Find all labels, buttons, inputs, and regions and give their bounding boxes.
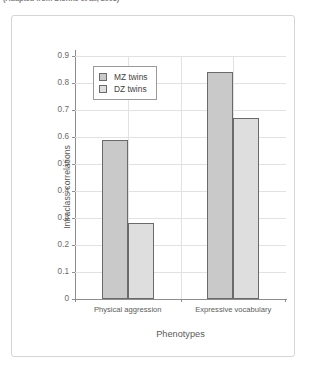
legend-item-mz: MZ twins <box>99 71 148 83</box>
y-axis-tick <box>72 83 75 84</box>
legend-label-dz: DZ twins <box>114 85 147 93</box>
y-axis-tick-label: 0.8 <box>58 79 69 87</box>
bar-dz-0 <box>128 223 154 299</box>
y-axis-tick-label: 0.6 <box>58 133 69 141</box>
y-axis-tick <box>72 245 75 246</box>
legend-swatch-dz-icon <box>99 85 107 93</box>
x-axis-category-label: Physical aggression <box>94 305 162 314</box>
figure-caption-text: (Adapted from Dionne et al., 2003) <box>0 0 311 4</box>
legend-label-mz: MZ twins <box>114 73 148 81</box>
y-axis-tick <box>72 56 75 57</box>
y-axis-tick-label: 0.9 <box>58 52 69 60</box>
x-axis-tick <box>181 299 182 302</box>
y-axis-tick-label: 0.2 <box>58 241 69 249</box>
x-axis-category-label: Expressive vocabulary <box>195 305 271 314</box>
y-axis-tick <box>72 110 75 111</box>
x-axis-title: Phenotypes <box>75 329 286 339</box>
legend-item-dz: DZ twins <box>99 83 148 95</box>
bar-mz-0 <box>102 140 128 299</box>
figure-caption: (Adapted from Dionne et al., 2003) <box>0 0 311 6</box>
bar-dz-1 <box>233 118 259 299</box>
figure-frame: 00.10.20.30.40.50.60.70.80.9 Intraclass … <box>11 15 295 357</box>
y-axis-tick <box>72 164 75 165</box>
y-axis-tick <box>72 272 75 273</box>
x-gridline <box>181 56 182 299</box>
chart-legend: MZ twins DZ twins <box>93 66 157 100</box>
x-axis-tick <box>75 299 76 302</box>
y-axis-tick-label: 0 <box>64 295 69 303</box>
y-axis-tick <box>72 191 75 192</box>
bar-chart: 00.10.20.30.40.50.60.70.80.9 Intraclass … <box>12 16 296 358</box>
x-axis-tick <box>285 299 286 302</box>
y-axis-tick-label: 0.7 <box>58 106 69 114</box>
y-axis-tick <box>72 218 75 219</box>
bar-mz-1 <box>207 72 233 299</box>
y-axis-title: Intraclass correlations <box>62 145 72 229</box>
y-axis-tick <box>72 137 75 138</box>
legend-swatch-mz-icon <box>99 73 107 81</box>
y-axis-tick-label: 0.1 <box>58 268 69 276</box>
